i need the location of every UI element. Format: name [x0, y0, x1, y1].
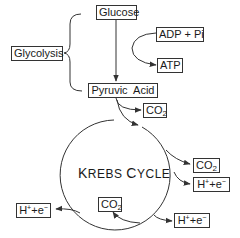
co2-right-box: CO2 [193, 158, 220, 173]
h-e-bottom-h: H [178, 214, 186, 226]
co2-right-sub: 2 [213, 164, 217, 173]
pyruvate-to-co2-arrow [116, 98, 141, 110]
pyruvate-into-cycle-arrow [117, 100, 138, 125]
cycle-rest: YCLE [137, 167, 170, 181]
h-e-left-mid: +e [31, 204, 44, 216]
adp-pi-box: ADP + Pi [156, 27, 204, 42]
co2-bottom-box: CO2 [98, 197, 122, 212]
h-e-bottom-box: H++e− [174, 213, 210, 228]
co2-right-base: CO [196, 159, 213, 171]
glycolysis-box: Glycolysis [11, 46, 63, 61]
krebs-cap-k: K [78, 165, 88, 181]
cycle-to-co2-bottom-arrow [113, 212, 140, 223]
glycolysis-brace [64, 14, 82, 91]
h-e-right-h: H [197, 178, 205, 190]
h-e-bottom-minus: − [202, 214, 206, 221]
cycle-to-co2-right-arrow [166, 150, 190, 164]
h-e-bottom-mid: +e [190, 214, 203, 226]
cycle-cap-c: C [126, 165, 137, 181]
pyruvic-acid-box: Pyruvic Acid [88, 83, 158, 98]
cycle-to-he-left-arrow [56, 209, 80, 213]
co2-top-sub: 2 [163, 109, 167, 118]
krebs-rest: REBS [88, 167, 127, 181]
h-e-right-mid: +e [209, 178, 222, 190]
co2-top-box: CO2 [143, 103, 167, 118]
glucose-box: Glucose [96, 5, 137, 20]
h-e-left-h: H [19, 204, 27, 216]
cycle-to-he-right-arrow [174, 172, 190, 184]
h-e-right-minus: − [222, 178, 226, 185]
h-e-left-minus: − [44, 204, 48, 211]
h-e-left-box: H++e− [16, 203, 51, 218]
krebs-cycle-label: KREBS CYCLE [78, 165, 170, 181]
cycle-to-he-bottom-arrow [154, 215, 172, 221]
atp-box: ATP [157, 58, 183, 73]
co2-top-base: CO [146, 104, 163, 116]
h-e-right-box: H++e− [193, 177, 230, 192]
adp-to-atp-arrow [132, 33, 156, 65]
co2-bottom-base: CO [101, 198, 118, 210]
co2-bottom-sub: 2 [118, 203, 122, 212]
